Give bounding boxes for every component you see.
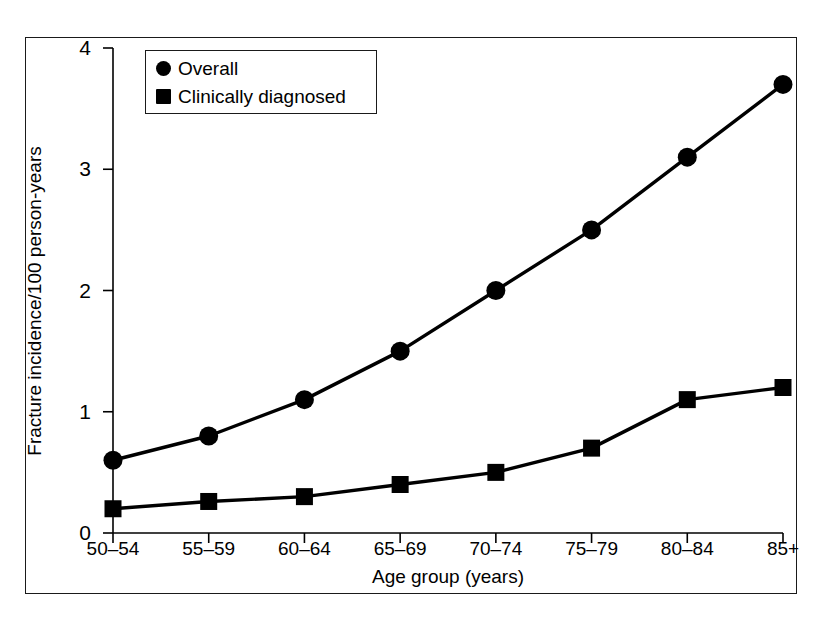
legend-label: Clinically diagnosed [178, 87, 346, 106]
y-axis-label: Fracture incidence/100 person-years [24, 136, 46, 466]
x-tick-label: 55–59 [159, 538, 259, 560]
x-tick-label: 75–79 [542, 538, 642, 560]
x-tick-label: 85+ [733, 538, 833, 560]
x-tick-label: 80–84 [637, 538, 737, 560]
legend-square-marker-icon [156, 89, 171, 104]
y-tick-label: 3 [61, 157, 91, 181]
legend-circle-marker-icon [156, 61, 171, 76]
x-tick-label: 50–54 [63, 538, 163, 560]
y-tick-label: 2 [61, 279, 91, 303]
x-tick-label: 60–64 [254, 538, 354, 560]
x-tick-label: 70–74 [446, 538, 546, 560]
figure: Fracture incidence/100 person-years Age … [0, 0, 833, 621]
figure-frame-border [25, 37, 797, 594]
y-tick-label: 4 [61, 36, 91, 60]
legend-entry-overall: Overall [156, 54, 376, 82]
x-tick-label: 65–69 [350, 538, 450, 560]
chart-legend: Overall Clinically diagnosed [145, 50, 377, 114]
legend-entry-clinically-diagnosed: Clinically diagnosed [156, 82, 376, 110]
y-tick-label: 1 [61, 400, 91, 424]
legend-label: Overall [178, 59, 238, 78]
x-axis-label: Age group (years) [113, 566, 783, 588]
